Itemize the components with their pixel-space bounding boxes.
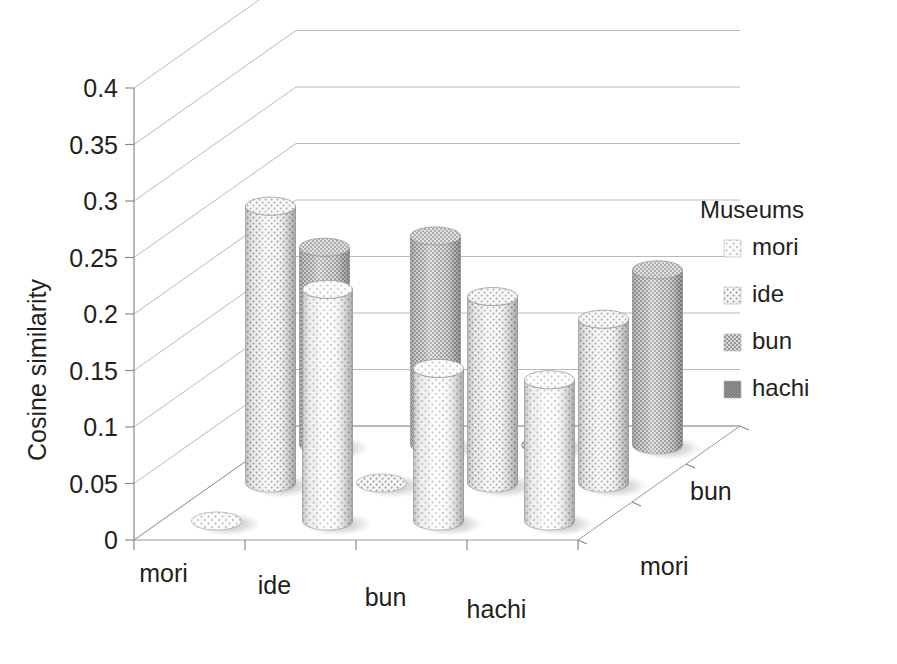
y-axis-tick-label: 0.2 xyxy=(83,300,118,328)
legend-label-mori: mori xyxy=(752,233,799,260)
y-axis-ticks: 00.050.10.150.20.250.30.350.4 xyxy=(69,74,134,554)
legend-title: Museums xyxy=(700,196,804,223)
gridline-left-wall xyxy=(134,0,296,88)
y-axis-title: Cosine similarity xyxy=(23,279,51,461)
z-axis-tickmark xyxy=(578,540,587,544)
z-axis-category-label: bun xyxy=(690,477,732,505)
y-axis-tick-label: 0.05 xyxy=(69,470,118,498)
bar-top-highlight xyxy=(411,227,461,245)
bar-shading xyxy=(246,206,296,492)
x-axis-category-label: ide xyxy=(258,571,291,599)
y-axis-tick-label: 0.35 xyxy=(69,131,118,159)
legend-label-ide: ide xyxy=(752,280,784,307)
y-axis-tick-label: 0.4 xyxy=(83,74,118,102)
bar-top-highlight xyxy=(300,238,350,256)
bar-shading xyxy=(525,380,575,530)
bar-top-highlight xyxy=(525,371,575,389)
bar-top-highlight xyxy=(579,310,629,328)
chart-bar-cylinder xyxy=(192,512,262,536)
legend-swatch-mori xyxy=(724,240,741,257)
cosine-similarity-3d-chart: 00.050.10.150.20.250.30.350.4 moriidebun… xyxy=(0,0,897,664)
bar-top-highlight xyxy=(246,197,296,215)
y-axis-tick-label: 0.25 xyxy=(69,244,118,272)
gridline-left-wall xyxy=(134,87,296,201)
legend-item[interactable]: hachi xyxy=(724,374,809,401)
legend-item[interactable]: mori xyxy=(724,233,799,260)
y-axis-tick-label: 0.1 xyxy=(83,413,118,441)
bar-top-highlight xyxy=(303,280,353,298)
z-axis-category-label: mori xyxy=(640,552,689,580)
x-axis-category-label: bun xyxy=(365,583,407,611)
legend-swatch-ide xyxy=(724,287,741,304)
bar-shading xyxy=(467,297,517,492)
x-axis-category-label: hachi xyxy=(467,595,527,623)
legend-item[interactable]: bun xyxy=(724,327,792,354)
bar-top-highlight xyxy=(414,359,464,377)
z-axis-tickmark xyxy=(686,464,695,468)
legend-swatch-bun xyxy=(724,334,741,351)
chart-bar-cylinder xyxy=(303,280,373,536)
bar-shading xyxy=(303,289,353,530)
y-axis-tick-label: 0.15 xyxy=(69,357,118,385)
chart-legend: Museums moriidebunhachi xyxy=(700,196,809,401)
y-axis-tick-label: 0.3 xyxy=(83,187,118,215)
x-axis-category-label: mori xyxy=(139,559,188,587)
bar-shading xyxy=(413,368,463,530)
chart-canvas: 00.050.10.150.20.250.30.350.4 moriidebun… xyxy=(0,0,897,664)
z-axis-tickmark xyxy=(740,426,749,430)
bar-zero-disc xyxy=(357,474,407,492)
bar-top-highlight xyxy=(633,261,683,279)
z-axis-tickmark xyxy=(632,502,641,506)
chart-bars xyxy=(192,197,703,536)
bar-zero-disc xyxy=(192,512,242,530)
chart-bar-cylinder xyxy=(633,261,703,460)
bar-top-highlight xyxy=(468,288,518,306)
bar-shading xyxy=(579,319,629,492)
legend-label-hachi: hachi xyxy=(752,374,809,401)
legend-item[interactable]: ide xyxy=(724,280,784,307)
gridline-left-wall xyxy=(134,31,296,145)
bar-shading xyxy=(633,270,683,454)
legend-label-bun: bun xyxy=(752,327,792,354)
x-axis-labels: moriidebunhachi xyxy=(139,559,526,623)
z-axis-labels: moribun xyxy=(640,477,732,580)
legend-swatch-hachi xyxy=(724,381,741,398)
y-axis-tick-label: 0 xyxy=(104,526,118,554)
